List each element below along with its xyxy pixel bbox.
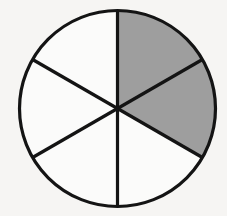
fraction-circle-diagram bbox=[0, 0, 227, 216]
fraction-circle-figure bbox=[0, 0, 227, 216]
